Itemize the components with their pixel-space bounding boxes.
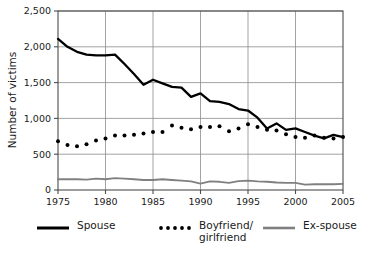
legend-label-ex-spouse: Ex-spouse [303,219,357,231]
svg-text:1990: 1990 [188,196,212,207]
svg-text:1980: 1980 [93,196,117,207]
gridlines [58,11,343,190]
x-axis-ticks [58,190,343,194]
svg-text:0: 0 [45,184,51,195]
x-axis-tick-labels: 1975198019851990199520002005 [46,196,355,207]
svg-text:1995: 1995 [236,196,260,207]
legend-label-spouse: Spouse [77,219,115,231]
svg-text:2,000: 2,000 [24,41,51,52]
chart-svg: 05001,0001,5002,0002,500 197519801985199… [0,0,374,215]
svg-text:2000: 2000 [283,196,307,207]
svg-text:2,500: 2,500 [24,5,51,16]
y-axis-title: Number of victims [6,52,18,149]
legend-item-spouse: Spouse [36,219,115,233]
svg-text:1,000: 1,000 [24,113,51,124]
svg-text:2005: 2005 [331,196,355,207]
legend-item-ex-spouse: Ex-spouse [262,219,357,233]
svg-text:1985: 1985 [141,196,165,207]
legend-swatch-ex-spouse-icon [262,220,296,234]
svg-text:1,500: 1,500 [24,77,51,88]
legend-label-boyfriend-girlfriend: Boyfriend/ girlfriend [199,219,253,243]
plot-area-container: 05001,0001,5002,0002,500 197519801985199… [0,0,374,215]
y-axis-tick-labels: 05001,0001,5002,0002,500 [24,5,51,195]
line-chart: 05001,0001,5002,0002,500 197519801985199… [0,0,374,256]
svg-text:1975: 1975 [46,196,70,207]
legend-swatch-boyfriend-girlfriend-icon [158,220,192,234]
legend-swatch-spouse-icon [36,220,70,234]
svg-text:500: 500 [33,149,51,160]
legend-item-boyfriend-girlfriend: Boyfriend/ girlfriend [158,219,253,243]
y-axis-ticks [54,11,58,190]
chart-legend: Spouse Boyfriend/ girlfriend Ex-spou [0,214,374,256]
